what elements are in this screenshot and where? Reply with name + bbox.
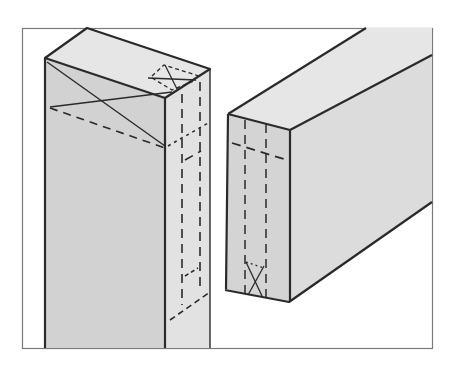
joinery-diagram [0, 0, 457, 365]
post [45, 28, 210, 348]
post-side-face [165, 69, 210, 348]
post-front-face [45, 58, 165, 348]
rail-end-face [226, 114, 290, 302]
